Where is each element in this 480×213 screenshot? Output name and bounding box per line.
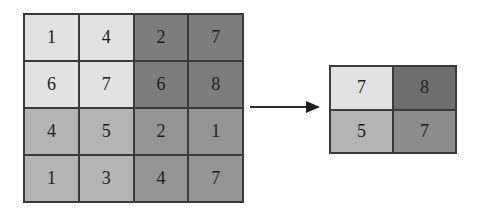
input-cell-r0c1: 4 (79, 14, 134, 61)
input-cell-r0c0: 1 (24, 14, 79, 61)
input-cell-r2c1: 5 (79, 108, 134, 155)
output-cell-r1c1: 7 (393, 110, 456, 154)
input-cell-r2c2: 2 (134, 108, 189, 155)
input-cell-r3c1: 3 (79, 155, 134, 202)
output-cell-r0c0: 7 (330, 66, 393, 110)
output-cell-r0c1: 8 (393, 66, 456, 110)
input-cell-r1c0: 6 (24, 61, 79, 108)
input-cell-r0c3: 7 (188, 14, 243, 61)
input-cell-r3c3: 7 (188, 155, 243, 202)
input-cell-r1c2: 6 (134, 61, 189, 108)
input-cell-r1c1: 7 (79, 61, 134, 108)
input-matrix: 1 4 2 7 6 7 6 8 4 5 2 1 1 3 4 7 (23, 13, 244, 203)
input-cell-r2c0: 4 (24, 108, 79, 155)
output-cell-r1c0: 5 (330, 110, 393, 154)
input-cell-r2c3: 1 (188, 108, 243, 155)
input-cell-r0c2: 2 (134, 14, 189, 61)
right-arrow-icon (250, 100, 320, 114)
input-cell-r3c0: 1 (24, 155, 79, 202)
output-matrix: 7 8 5 7 (329, 65, 457, 154)
input-cell-r1c3: 8 (188, 61, 243, 108)
input-cell-r3c2: 4 (134, 155, 189, 202)
